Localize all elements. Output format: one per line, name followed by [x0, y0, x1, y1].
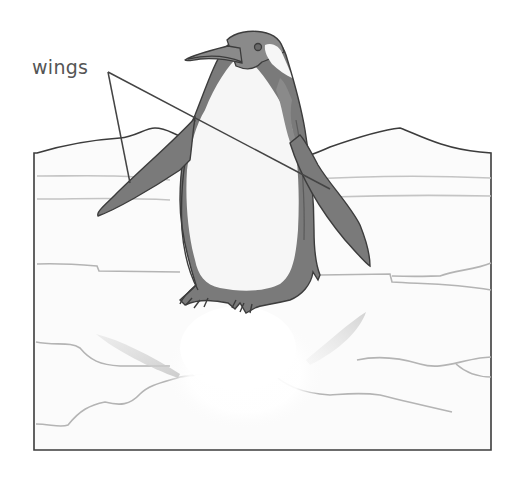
- penguin-beak: [185, 46, 242, 63]
- wings-label: wings: [32, 56, 88, 78]
- penguin-diagram: wings: [0, 0, 516, 483]
- penguin-eye: [255, 44, 262, 51]
